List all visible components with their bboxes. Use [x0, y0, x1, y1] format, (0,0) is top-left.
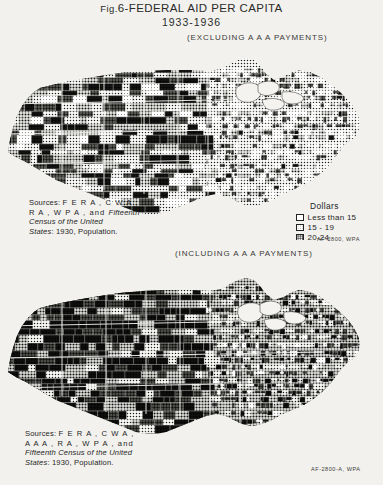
- source-note-including: Sources: F E R A , C W A , A A A , R A ,…: [25, 429, 135, 467]
- legend-row: Less than 15: [296, 213, 356, 223]
- source-line: States: 1930, Population.: [29, 227, 140, 237]
- legend-row: 15 - 19: [296, 223, 356, 233]
- source-line: Sources: F E R A , C W A ,: [25, 429, 135, 439]
- legend-swatch-icon: [296, 214, 304, 221]
- source-line: States: 1930, Population.: [25, 458, 135, 468]
- legend-swatch-icon: [296, 234, 304, 240]
- panel-subtitle-including: (INCLUDING A A A PAYMENTS): [175, 249, 313, 258]
- source-line: Fifteenth Census of the United: [25, 448, 135, 458]
- figure-page: Fig.6-FEDERAL AID PER CAPITA 1933-1936 (…: [0, 0, 383, 485]
- legend-swatch-icon: [296, 224, 304, 231]
- title-year-range: 1933-1936: [0, 16, 383, 28]
- legend-label: Less than 15: [308, 213, 357, 222]
- credit-code-excluding: AF-2800, WPA: [317, 236, 360, 242]
- source-line: Sources: F E R A , C W A ,: [29, 198, 140, 208]
- source-note-excluding: Sources: F E R A , C W A , R A , W P A ,…: [29, 198, 140, 236]
- source-line: A A A , R A , W P A , and: [25, 439, 135, 449]
- legend-label: 15 - 19: [308, 223, 335, 232]
- source-line: Census of the United: [29, 217, 140, 227]
- legend-excluding-aaa: Dollars Less than 15 15 - 19 20-24 25 - …: [296, 201, 356, 240]
- legend-title: Dollars: [310, 201, 356, 211]
- credit-code-including: AF-2800-A, WPA: [311, 466, 360, 472]
- page-title: Fig.6-FEDERAL AID PER CAPITA: [0, 2, 383, 14]
- panel-subtitle-excluding: (EXCLUDING A A A PAYMENTS): [187, 33, 327, 42]
- figure-title-text: 6-FEDERAL AID PER CAPITA: [118, 2, 283, 14]
- figure-number-label: Fig.: [100, 3, 117, 14]
- source-line: R A , W P A , and Fifteenth: [29, 208, 140, 218]
